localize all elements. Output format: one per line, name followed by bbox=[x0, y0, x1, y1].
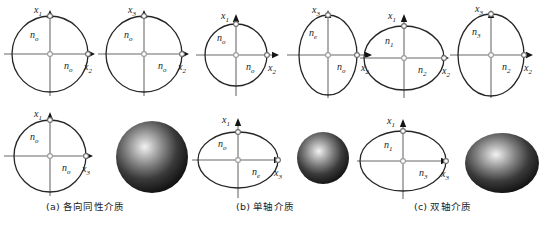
axis-label-horizontal: x2 bbox=[523, 62, 532, 76]
axis-label-vertical: x3 bbox=[311, 4, 320, 18]
axis-label-horizontal: x3 bbox=[273, 167, 282, 181]
panel-c-top-right: x3 n3 n2 x2 bbox=[448, 3, 541, 98]
index-label-vertical: ne bbox=[309, 27, 317, 41]
caption-c: (c) 双轴介质 bbox=[414, 199, 471, 213]
solid-c-ellipsoid bbox=[464, 132, 541, 196]
index-label-vertical: no bbox=[218, 138, 227, 152]
horizontal-intercept-marker bbox=[276, 158, 281, 163]
origin-marker bbox=[326, 53, 331, 58]
origin-marker bbox=[401, 159, 406, 164]
origin-marker bbox=[489, 53, 494, 58]
index-label-horizontal: no bbox=[62, 162, 71, 176]
axis-label-vertical: x1 bbox=[33, 4, 42, 18]
index-label-vertical: n1 bbox=[385, 35, 394, 49]
index-label-horizontal: n2 bbox=[502, 61, 511, 75]
origin-marker bbox=[234, 53, 239, 58]
vertical-intercept-marker bbox=[142, 14, 147, 19]
vertical-axis-arrow bbox=[401, 14, 407, 22]
axis-label-vertical: x1 bbox=[33, 108, 42, 122]
origin-marker bbox=[48, 154, 53, 159]
axis-label-vertical: x1 bbox=[387, 10, 396, 24]
horizontal-intercept-marker bbox=[442, 56, 447, 61]
axis-label-vertical: x1 bbox=[221, 114, 230, 128]
panel-c-top-left: x1 n1 n2 x2 bbox=[358, 8, 458, 98]
caption-a: (a) 各向同性介质 bbox=[46, 199, 124, 213]
panel-c-bottom-left: x1 n1 n3 x3 bbox=[355, 113, 460, 199]
solid-b-sphere bbox=[294, 130, 354, 188]
horizontal-axis-arrow bbox=[526, 52, 533, 58]
axis-label-horizontal: x2 bbox=[177, 61, 186, 75]
vertical-intercept-marker bbox=[326, 13, 331, 18]
solid-a-sphere bbox=[112, 118, 192, 196]
horizontal-intercept-marker bbox=[522, 53, 527, 58]
axis-label-horizontal: x2 bbox=[267, 62, 276, 76]
vertical-intercept-marker bbox=[402, 24, 407, 29]
index-label-vertical: no bbox=[30, 131, 39, 145]
caption-row: (a) 各向同性介质 (b) 单轴介质 (c) 双轴介质 bbox=[0, 199, 541, 221]
horizontal-intercept-marker bbox=[86, 52, 91, 57]
axis-label-vertical: x3 bbox=[474, 3, 483, 17]
panel-a-top-right: x3 no no x2 bbox=[96, 4, 192, 96]
index-label-horizontal: no bbox=[337, 61, 346, 75]
origin-marker bbox=[402, 56, 407, 61]
horizontal-intercept-marker bbox=[84, 154, 89, 159]
vertical-intercept-marker bbox=[489, 12, 494, 17]
index-label-horizontal: n3 bbox=[419, 167, 428, 181]
index-label-horizontal: n2 bbox=[418, 64, 427, 78]
axis-label-horizontal: x3 bbox=[440, 168, 449, 182]
origin-marker bbox=[142, 52, 147, 57]
axis-label-horizontal: x2 bbox=[83, 61, 92, 75]
axis-label-vertical: x3 bbox=[127, 4, 136, 18]
horizontal-intercept-marker bbox=[180, 52, 185, 57]
vertical-axis-arrow bbox=[400, 119, 406, 127]
vertical-intercept-marker bbox=[401, 129, 406, 134]
vertical-intercept-marker bbox=[48, 14, 53, 19]
panel-a-top-left: x1 no no x2 bbox=[2, 4, 98, 96]
vertical-axis-arrow bbox=[235, 118, 241, 126]
panel-a-bottom-left: x1 no no x3 bbox=[2, 108, 98, 196]
vertical-axis-arrow bbox=[233, 14, 239, 22]
vertical-intercept-marker bbox=[48, 118, 53, 123]
axis-label-vertical: x1 bbox=[220, 10, 229, 24]
index-label-horizontal: no bbox=[64, 60, 73, 74]
horizontal-axis-arrow bbox=[272, 52, 279, 58]
index-label-vertical: no bbox=[217, 32, 226, 46]
origin-marker bbox=[48, 52, 53, 57]
caption-b: (b) 单轴介质 bbox=[236, 199, 294, 213]
sphere-body bbox=[297, 132, 349, 184]
ellipsoid-body bbox=[465, 133, 539, 193]
horizontal-intercept-marker bbox=[265, 53, 270, 58]
axis-label-horizontal: x3 bbox=[81, 163, 90, 177]
index-label-horizontal: no bbox=[246, 61, 255, 75]
index-label-vertical: no bbox=[30, 29, 39, 43]
vertical-intercept-marker bbox=[236, 130, 241, 135]
index-label-horizontal: ne bbox=[252, 166, 260, 180]
origin-marker bbox=[236, 158, 241, 163]
optical-indicatrix-figure: x1 no no x2 x3 no no x2 bbox=[0, 0, 541, 226]
index-label-vertical: n1 bbox=[384, 139, 393, 153]
index-label-vertical: no bbox=[124, 29, 133, 43]
panel-b-bottom-left: x1 no ne x3 bbox=[190, 112, 290, 198]
horizontal-intercept-marker bbox=[444, 159, 449, 164]
sphere-body bbox=[116, 121, 188, 193]
index-label-horizontal: no bbox=[158, 60, 167, 74]
index-label-vertical: n3 bbox=[472, 26, 481, 40]
panel-b-top-left: x1 no no x2 bbox=[192, 10, 288, 96]
vertical-intercept-marker bbox=[234, 22, 239, 27]
axis-label-vertical: x1 bbox=[386, 115, 395, 129]
